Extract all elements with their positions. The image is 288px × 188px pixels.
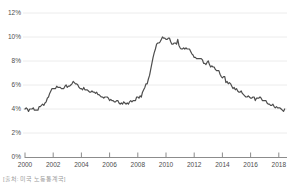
- y-tick-label: 8%: [12, 57, 22, 64]
- x-tick-label: 2000: [18, 161, 33, 168]
- source-note: [출처: 미국 노동통계국]: [3, 175, 65, 183]
- x-tick-label: 2008: [131, 161, 146, 168]
- x-tick-label: 2014: [215, 161, 230, 168]
- x-tick-label: 2010: [159, 161, 174, 168]
- chart-svg: 0%2%4%6%8%10%12%200020022004200620082010…: [0, 0, 288, 188]
- y-tick-label: 2%: [12, 129, 22, 136]
- unemployment-rate-chart: 0%2%4%6%8%10%12%200020022004200620082010…: [0, 0, 288, 188]
- x-tick-label: 2018: [272, 161, 287, 168]
- x-tick-label: 2004: [74, 161, 89, 168]
- y-tick-label: 10%: [8, 33, 21, 40]
- y-tick-label: 12%: [8, 9, 21, 16]
- y-tick-label: 0%: [12, 153, 22, 160]
- x-tick-label: 2006: [102, 161, 117, 168]
- y-tick-label: 4%: [12, 105, 22, 112]
- x-tick-label: 2012: [187, 161, 202, 168]
- y-tick-label: 6%: [12, 81, 22, 88]
- x-tick-label: 2002: [46, 161, 61, 168]
- unemployment-rate-line: [25, 37, 285, 111]
- x-tick-label: 2016: [243, 161, 258, 168]
